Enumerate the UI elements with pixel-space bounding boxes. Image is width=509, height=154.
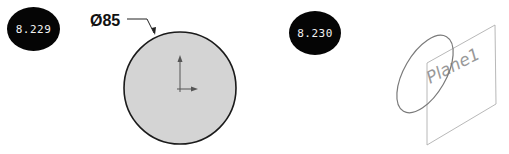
plane1-outline[interactable] [427, 25, 496, 145]
leader-arrow-icon [152, 27, 157, 35]
diameter-dimension-text: Ø85 [90, 12, 120, 29]
sketch-circle-figure: Ø85 [90, 12, 236, 144]
plane-figure: Plane1 [385, 25, 496, 145]
diameter-dimension[interactable]: Ø85 [90, 12, 156, 35]
leader-line [127, 19, 154, 33]
drawing-canvas: Ø85 Plane1 [0, 0, 509, 154]
